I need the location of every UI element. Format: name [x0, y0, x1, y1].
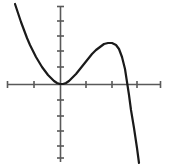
graph-canvas [0, 0, 169, 168]
graph-figure [0, 0, 169, 168]
